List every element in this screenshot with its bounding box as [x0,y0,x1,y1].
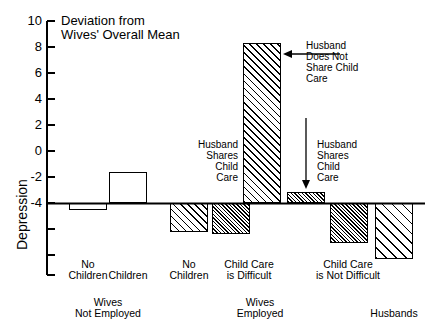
annotation-husband-shares-left: Husband Shares Child Care [182,139,238,183]
y-axis-title: Depression [14,179,30,250]
group-label-wives-employed: Wives Employed [210,297,310,319]
y-tick-label-4: 4 [12,93,42,104]
group-label-wives-not-employed: Wives Not Employed [53,297,163,319]
y-tick-label-neg4: -4 [12,197,42,208]
plot-title-line1: Deviation from [61,14,145,28]
category-label-child-care-not-difficult: Child Care is Not Difficult [302,259,394,281]
y-tick-label-10: 10 [12,15,42,26]
y-tick-label-0: 0 [12,145,42,156]
bar-husbands [375,203,413,259]
annotation-husband-does-not-share: Husband Does Not Share Child Care [306,40,386,84]
bar-wives-not-employed-no-children [69,203,107,210]
category-label-child-care-difficult: Child Care is Difficult [211,259,287,281]
bar-difficult-husband-shares [212,203,250,234]
category-label-children: Children [99,270,157,281]
y-tick-label-2: 2 [12,119,42,130]
y-tick-label-6: 6 [12,67,42,78]
bar-difficult-husband-does-not-share [243,43,281,203]
bar-wives-employed-no-children [170,203,208,232]
plot-title-line2: Wives' Overall Mean [61,28,180,42]
bar-not-difficult-husband-shares [287,192,325,203]
annotation-husband-shares-left-text: Husband Shares Child Care [198,139,238,183]
annotation-husband-does-not-share-text: Husband Does Not Share Child Care [306,40,358,84]
annotation-husband-shares-right: Husband Shares Child Care [317,139,377,183]
y-tick-label-8: 8 [12,41,42,52]
y-tick-label-neg2: -2 [12,171,42,182]
annotation-husband-shares-right-text: Husband Shares Child Care [317,139,357,183]
chart-container: Depression 10 8 6 4 2 0 -2 -4 Deviation … [0,0,434,332]
category-label-no-children-2: No Children [159,259,219,281]
bar-not-difficult-husband-does-not-share [330,203,368,243]
bar-wives-not-employed-children [109,172,147,203]
group-label-husbands: Husbands [356,308,432,319]
